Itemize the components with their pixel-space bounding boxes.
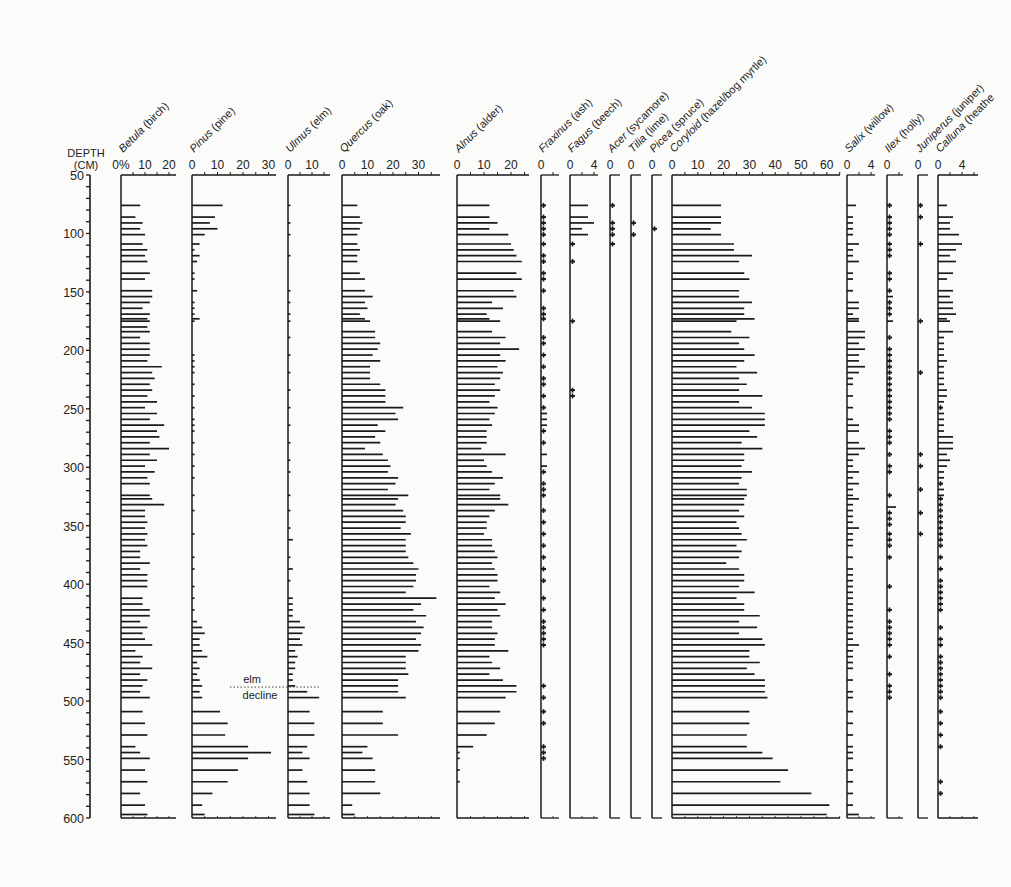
taxon-column-quercus: 0102030Quercus (oak): [337, 97, 440, 818]
scale-label: 0: [935, 158, 942, 172]
scale-label: 0: [454, 158, 461, 172]
taxon-label: Pinus (pine): [187, 104, 237, 154]
scale-label: 20: [162, 158, 176, 172]
scale-label: 30: [262, 158, 276, 172]
scale-label: 0: [915, 158, 922, 172]
taxon-common-name: (elm): [307, 104, 333, 130]
taxon-column-pinus: 0102030Pinus (pine): [187, 104, 276, 818]
scale-label: 20: [386, 158, 400, 172]
taxon-common-name: (ash): [568, 96, 594, 122]
taxon-genus: Quercus: [337, 114, 377, 154]
taxon-column-picea: 0Picea (spruce): [647, 96, 706, 818]
taxon-label: Quercus (oak): [337, 97, 395, 155]
scale-label: 0: [567, 158, 574, 172]
scale-label: 40: [769, 158, 783, 172]
taxa-columns: 0%1020Betula (birch)0102030Pinus (pine)0…: [112, 53, 996, 818]
depth-tick-label: 150: [63, 286, 84, 300]
taxon-column-fagus: 04Fagus (beech): [565, 96, 624, 818]
scale-label: 10: [138, 158, 152, 172]
scale-label: 0: [628, 158, 635, 172]
taxon-label: Coryloid (hazel/bog myrtle): [667, 53, 768, 154]
depth-tick-label: 50: [70, 169, 84, 183]
scale-label: 0: [884, 158, 891, 172]
depth-axis-unit: (CM): [74, 159, 98, 171]
scale-label: 4: [868, 158, 875, 172]
taxon-label: Ulmus (elm): [283, 104, 333, 154]
taxon-common-name: (birch): [140, 100, 171, 131]
depth-tick-label: 200: [63, 344, 84, 358]
depth-tick-label: 100: [63, 227, 84, 241]
depth-axis: 50100150200250300350400450500550600DEPTH…: [63, 147, 105, 826]
taxon-label: Betula (birch): [116, 100, 171, 155]
scale-label: 20: [717, 158, 731, 172]
depth-tick-label: 250: [63, 403, 84, 417]
depth-tick-label: 550: [63, 754, 84, 768]
taxon-column-juniperus: 0Juniperus (juniper): [912, 81, 986, 818]
scale-label: 30: [412, 158, 426, 172]
taxon-common-name: (hazel/bog myrtle): [698, 53, 769, 124]
scale-label: 0: [538, 158, 545, 172]
scale-label: 0: [607, 158, 614, 172]
taxon-column-acer: 0Acer (sycamore): [604, 89, 670, 818]
taxon-common-name: (beech): [589, 96, 624, 131]
depth-tick-label: 400: [63, 578, 84, 592]
taxon-column-fraxinus: 0Fraxinus (ash): [536, 96, 594, 818]
elm-decline-label: decline: [243, 689, 278, 701]
scale-label: 10: [305, 158, 319, 172]
depth-axis-title: DEPTH: [67, 147, 104, 159]
depth-tick-label: 300: [63, 461, 84, 475]
scale-label: 10: [361, 158, 375, 172]
scale-label: 10: [477, 158, 491, 172]
taxon-common-name: (oak): [368, 97, 394, 123]
taxon-common-name: (holly): [896, 110, 926, 140]
scale-label: 10: [691, 158, 705, 172]
scale-label: 30: [743, 158, 757, 172]
taxon-column-betula: 0%1020Betula (birch): [112, 100, 176, 818]
taxon-column-alnus: 01020Alnus (alder): [451, 102, 529, 818]
scale-label: 20: [236, 158, 250, 172]
scale-label: 0: [649, 158, 656, 172]
taxon-common-name: (willow): [861, 101, 895, 135]
scale-label: 0: [189, 158, 196, 172]
depth-tick-label: 500: [63, 695, 84, 709]
scale-label: 4: [591, 158, 598, 172]
scale-label: 0: [339, 158, 346, 172]
scale-label: 0%: [112, 158, 130, 172]
depth-tick-label: 600: [63, 812, 84, 826]
depth-tick-label: 350: [63, 520, 84, 534]
taxon-column-ulmus: 010Ulmus (elm): [283, 104, 333, 818]
taxon-column-tilia: 0Tilia (lime): [626, 110, 670, 818]
pollen-diagram: 50100150200250300350400450500550600DEPTH…: [0, 0, 1011, 887]
scale-label: 0: [285, 158, 292, 172]
scale-label: 4: [959, 158, 966, 172]
pollen-chart-svg: 50100150200250300350400450500550600DEPTH…: [0, 0, 1011, 887]
scale-label: 0: [669, 158, 676, 172]
depth-tick-label: 450: [63, 637, 84, 651]
scale-label: 0: [844, 158, 851, 172]
scale-label: 60: [820, 158, 834, 172]
taxon-column-calluna: 04Calluna (heathe: [933, 91, 996, 818]
taxon-common-name: (alder): [474, 102, 505, 133]
taxon-common-name: (pine): [209, 104, 237, 132]
taxon-column-coryloid: 0102030405060Coryloid (hazel/bog myrtle): [667, 53, 840, 818]
scale-label: 50: [794, 158, 808, 172]
scale-label: 20: [504, 158, 518, 172]
elm-decline-label: elm: [243, 673, 261, 685]
taxon-label: Alnus (alder): [451, 102, 504, 155]
scale-label: 10: [211, 158, 225, 172]
